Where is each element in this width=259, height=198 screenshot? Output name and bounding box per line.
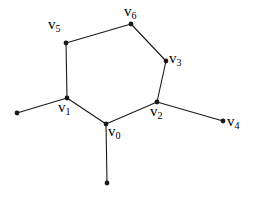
- vertex-label-subscript-v6: 6: [132, 10, 137, 21]
- vertex-label-base-v4: v: [227, 113, 235, 129]
- vertex-dot-v6: [129, 22, 134, 27]
- vertex-label-base-v6: v: [124, 3, 132, 19]
- edges-group: [17, 24, 223, 183]
- graph-diagram: v0v1v2v3v4v5v6: [0, 0, 259, 198]
- vertex-dot-v3: [164, 59, 169, 64]
- vertex-label-subscript-v4: 4: [235, 120, 240, 131]
- graph-edge-v2-v4: [157, 102, 223, 121]
- vertex-label-v4: v4: [227, 114, 240, 129]
- graph-canvas: [0, 0, 259, 198]
- vertex-label-v3: v3: [169, 51, 182, 66]
- vertex-label-v0: v0: [108, 124, 121, 139]
- vertex-label-v2: v2: [150, 104, 163, 119]
- vertex-label-base-v1: v: [58, 99, 66, 115]
- vertices-group: [15, 22, 226, 186]
- vertex-dot-e_bottom: [105, 181, 110, 186]
- vertex-label-base-v2: v: [150, 103, 158, 119]
- vertex-label-base-v3: v: [169, 50, 177, 66]
- graph-edge-v3-v2: [157, 61, 166, 102]
- vertex-dot-v5: [64, 41, 69, 46]
- vertex-label-base-v5: v: [48, 16, 56, 32]
- vertex-label-subscript-v3: 3: [177, 57, 182, 68]
- graph-edge-v0-v1: [67, 98, 106, 124]
- vertex-label-subscript-v0: 0: [116, 130, 121, 141]
- vertex-label-v5: v5: [48, 17, 61, 32]
- vertex-label-subscript-v5: 5: [56, 23, 61, 34]
- graph-edge-v5-v6: [66, 24, 131, 43]
- vertex-label-base-v0: v: [108, 123, 116, 139]
- vertex-label-subscript-v1: 1: [66, 106, 71, 117]
- graph-edge-v6-v3: [131, 24, 166, 61]
- vertex-label-v6: v6: [124, 4, 137, 19]
- vertex-label-subscript-v2: 2: [158, 110, 163, 121]
- vertex-label-v1: v1: [58, 100, 71, 115]
- vertex-dot-v4: [221, 119, 226, 124]
- graph-edge-v0-e_bottom: [106, 124, 107, 183]
- graph-edge-v1-v5: [66, 43, 67, 98]
- vertex-dot-e_left: [15, 111, 20, 116]
